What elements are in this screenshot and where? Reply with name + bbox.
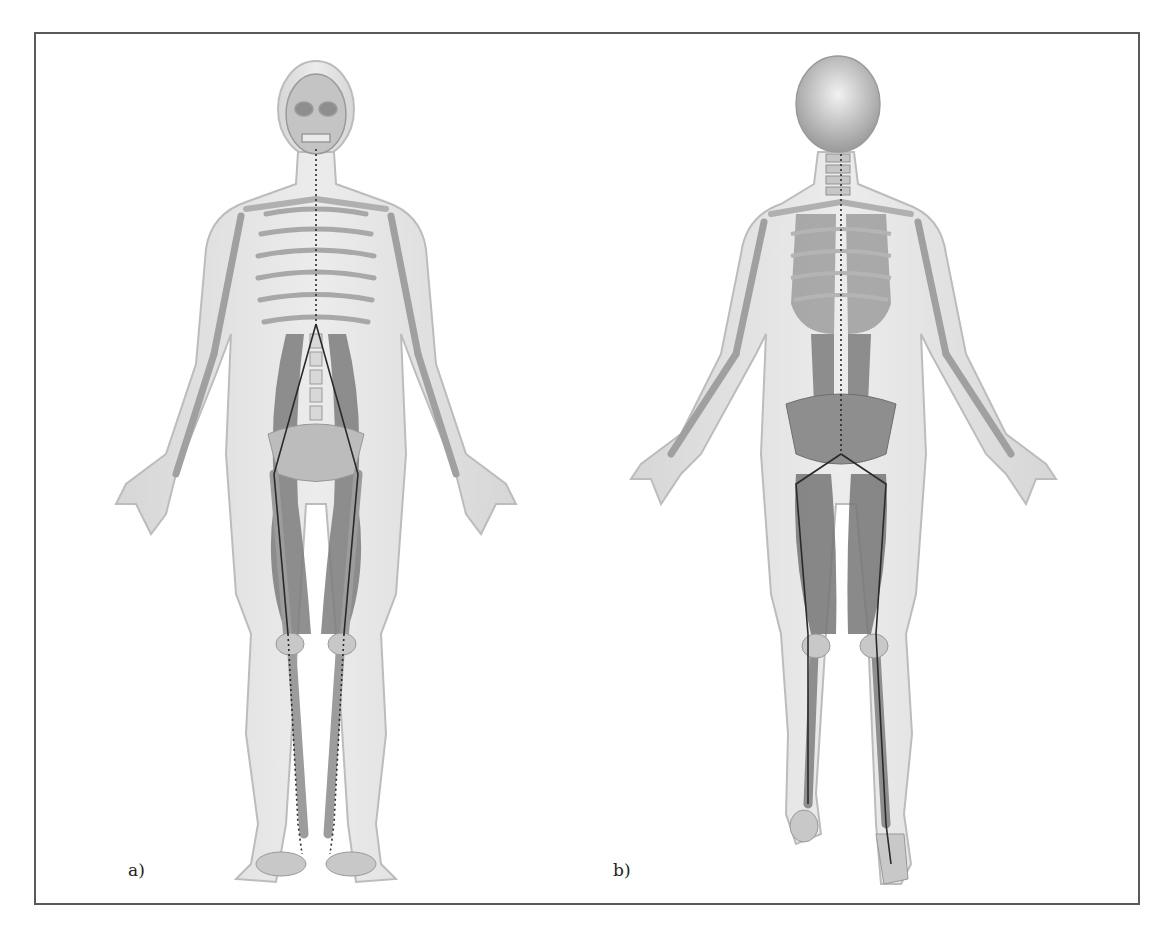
posterior-body-illustration: [586, 34, 1142, 904]
panel-a-label: a): [128, 860, 145, 880]
panel-b-posterior-view: b): [586, 34, 1142, 903]
anterior-body-illustration: [36, 34, 586, 904]
figure-frame: a): [34, 32, 1140, 905]
panel-a-anterior-view: a): [36, 34, 586, 903]
panel-b-label: b): [613, 860, 631, 880]
